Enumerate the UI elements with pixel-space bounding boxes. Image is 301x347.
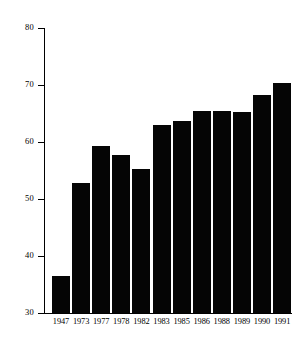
x-tick-label: 1990 [251,317,273,327]
bar [52,276,70,313]
bar [233,112,251,313]
x-tick-label: 1985 [171,317,193,327]
x-tick-label: 1991 [271,317,293,327]
x-tick-label: 1978 [110,317,132,327]
x-tick-label: 1988 [211,317,233,327]
bar [112,155,130,313]
x-tick-label: 1982 [130,317,152,327]
bar [173,121,191,313]
x-axis-labels: 1947197319771978198219831985198619881989… [0,317,301,333]
bar [132,169,150,313]
x-tick-label: 1977 [90,317,112,327]
x-tick-label: 1983 [151,317,173,327]
bar [153,125,171,313]
bar [253,95,271,313]
x-tick-label: 1947 [50,317,72,327]
bar [273,83,291,313]
x-tick-label: 1989 [231,317,253,327]
bar [213,111,231,313]
bar [193,111,211,313]
bar-chart: 304050607080 194719731977197819821983198… [0,0,301,347]
x-tick-label: 1986 [191,317,213,327]
bars-layer [0,0,301,347]
bar [72,183,90,313]
x-tick-label: 1973 [70,317,92,327]
bar [92,146,110,313]
